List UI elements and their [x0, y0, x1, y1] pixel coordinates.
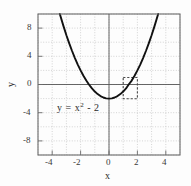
y-tick-label-0: 0	[27, 78, 32, 88]
y-tick-label-4: 4	[27, 50, 32, 60]
x-tick-label-0: 0	[106, 157, 111, 167]
y-tick-label-neg4: -4	[23, 107, 31, 117]
equation-label: y = x2 - 2	[57, 101, 99, 113]
equation-prefix: y = x	[57, 102, 80, 113]
y-axis-title: y	[5, 78, 16, 92]
x-tick-label-neg4: -4	[45, 157, 53, 167]
x-tick-label-2: 2	[134, 157, 139, 167]
x-tick-label-4: 4	[162, 157, 167, 167]
y-tick-label-neg8: -8	[23, 135, 31, 145]
x-tick-label-neg2: -2	[73, 157, 81, 167]
equation-suffix: - 2	[84, 102, 99, 113]
x-axis-title: x	[105, 170, 110, 181]
y-tick-label-8: 8	[27, 22, 32, 32]
